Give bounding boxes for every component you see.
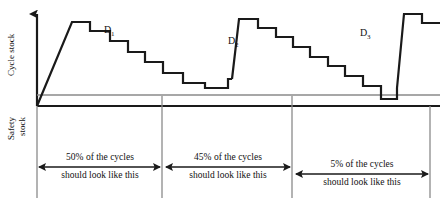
cycle-label-d3-sub: 3 — [367, 33, 371, 41]
y-axis-label-safety-line2: stock — [17, 117, 27, 136]
annotation-1-line2: should look like this — [61, 170, 139, 180]
annotation-3: 5% of the cycles should look like this — [323, 159, 401, 187]
annotation-1: 50% of the cycles should look like this — [61, 152, 139, 180]
cycle-curve-d1 — [37, 22, 232, 106]
cycle-label-d2-sub: 2 — [235, 41, 239, 49]
cycle-curve-d3 — [397, 14, 440, 88]
annotation-2: 45% of the cycles should look like this — [189, 152, 267, 180]
cycle-curve-d2 — [232, 19, 397, 99]
annotation-2-line1: 45% of the cycles — [194, 152, 262, 162]
annotation-2-line2: should look like this — [189, 170, 267, 180]
cycle-label-d3: D 3 — [360, 27, 371, 41]
annotation-3-line2: should look like this — [323, 177, 401, 187]
cycle-label-d1-sub: 1 — [111, 30, 115, 38]
y-axis-label-safety-line1: Safety — [6, 117, 16, 140]
annotation-3-line1: 5% of the cycles — [330, 159, 393, 169]
figure-root: Cycle stock Safety stock D 1 D 2 D 3 — [0, 0, 440, 216]
y-axis-label-cycle-stock: Cycle stock — [6, 33, 16, 76]
inventory-cycle-diagram: Cycle stock Safety stock D 1 D 2 D 3 — [0, 0, 440, 216]
annotation-1-line1: 50% of the cycles — [66, 152, 134, 162]
